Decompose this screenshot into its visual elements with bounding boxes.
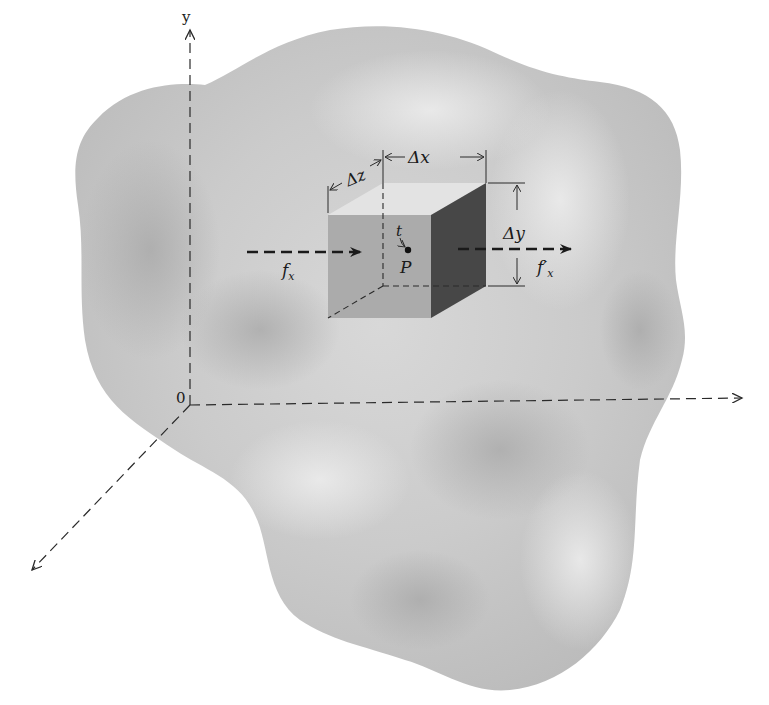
y-axis-label: y	[181, 8, 191, 26]
dx-label: Δx	[407, 147, 430, 167]
z-axis	[32, 405, 190, 570]
time-label: t	[396, 222, 403, 240]
dy-label: Δy	[502, 223, 525, 243]
diagram-canvas: y 0 Δx Δy Δz P t fx f′x	[0, 0, 769, 705]
origin-label: 0	[176, 389, 186, 407]
point-p-marker	[405, 247, 411, 253]
cube-front-face	[328, 215, 431, 318]
point-p-label: P	[399, 257, 412, 277]
material-body	[75, 26, 685, 690]
